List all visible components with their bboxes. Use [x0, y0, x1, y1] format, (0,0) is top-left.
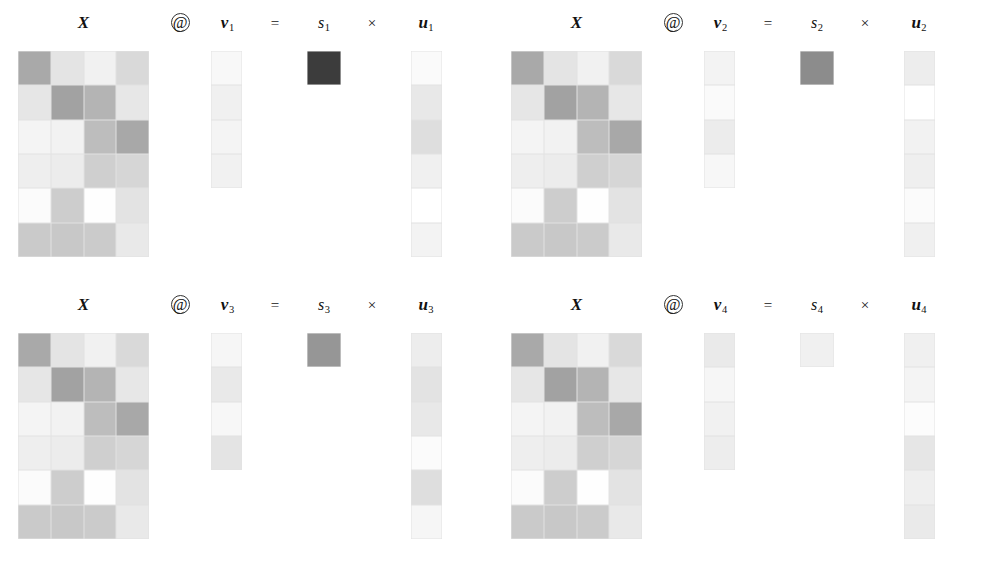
- heatmap-scalar-s: [307, 333, 341, 367]
- heatmap-cell: [116, 120, 149, 154]
- heatmap-cell: [577, 402, 610, 436]
- heatmap-cell: [18, 188, 51, 222]
- heatmap-cell: [411, 367, 442, 401]
- heatmap-cell: [211, 333, 242, 367]
- heatmap-cell: [544, 188, 577, 222]
- heatmap-cell: [704, 367, 735, 401]
- matmul-operator-4: @: [653, 292, 693, 318]
- heatmap-cell: [511, 333, 544, 367]
- heatmap-cell: [51, 470, 84, 504]
- heatmap-cell: [411, 470, 442, 504]
- times-operator-3: ×: [356, 292, 388, 318]
- heatmap-vector-v: [211, 51, 242, 188]
- heatmap-cell: [84, 188, 117, 222]
- vector-label-v-4: v4: [698, 292, 743, 323]
- heatmap-cell: [18, 85, 51, 119]
- heatmap-cell: [411, 333, 442, 367]
- heatmap-cell: [116, 367, 149, 401]
- heatmap-cell: [577, 85, 610, 119]
- heatmap-cell: [511, 402, 544, 436]
- heatmap-cell: [211, 120, 242, 154]
- heatmap-cell: [18, 154, 51, 188]
- heatmap-cell: [51, 188, 84, 222]
- heatmap-cell: [116, 436, 149, 470]
- heatmap-cell: [511, 436, 544, 470]
- heatmap-cell: [211, 402, 242, 436]
- heatmap-vector-u: [904, 51, 935, 257]
- heatmap-cell: [511, 367, 544, 401]
- heatmap-cell: [577, 51, 610, 85]
- heatmap-cell: [51, 51, 84, 85]
- heatmap-cell: [609, 223, 642, 257]
- heatmap-cell: [18, 402, 51, 436]
- heatmap-cell: [904, 85, 935, 119]
- heatmap-cell: [18, 470, 51, 504]
- heatmap-vector-v: [211, 333, 242, 470]
- heatmap-cell: [411, 505, 442, 539]
- heatmap-scalar-s: [307, 51, 341, 85]
- vector-label-u-2: u2: [893, 10, 945, 41]
- heatmap-cell: [411, 402, 442, 436]
- heatmap-scalar-s: [800, 51, 834, 85]
- matmul-operator-3: @: [160, 292, 200, 318]
- matrix-label-X-4: X: [511, 292, 642, 318]
- heatmap-cell: [609, 85, 642, 119]
- vector-label-u-4: u4: [893, 292, 945, 323]
- heatmap-cell: [18, 436, 51, 470]
- heatmap-cell: [800, 51, 834, 85]
- equation-labels-2: X @ v2 = s2 × u2: [493, 10, 986, 40]
- equation-labels-1: X @ v1 = s1 × u1: [0, 10, 493, 40]
- heatmap-cell: [18, 367, 51, 401]
- scalar-label-s-1: s1: [298, 10, 350, 41]
- heatmap-cell: [609, 367, 642, 401]
- equals-operator-3: =: [258, 292, 292, 318]
- heatmap-cell: [544, 333, 577, 367]
- heatmap-cell: [116, 505, 149, 539]
- heatmap-cell: [904, 367, 935, 401]
- heatmap-matrix-X: [18, 333, 149, 539]
- heatmap-cell: [800, 333, 834, 367]
- vector-label-u-1: u1: [400, 10, 452, 41]
- heatmap-cell: [51, 223, 84, 257]
- heatmap-cell: [511, 120, 544, 154]
- heatmap-cell: [411, 223, 442, 257]
- figure-canvas: X @ v1 = s1 × u1: [0, 0, 987, 564]
- equation-labels-4: X @ v4 = s4 × u4: [493, 292, 986, 322]
- heatmap-cell: [577, 436, 610, 470]
- matrix-label-X-2: X: [511, 10, 642, 36]
- matmul-operator-1: @: [160, 10, 200, 36]
- equation-panel-2: X @ v2 = s2 × u2: [493, 0, 986, 282]
- heatmap-cell: [116, 223, 149, 257]
- heatmap-cell: [211, 85, 242, 119]
- heatmap-cell: [51, 367, 84, 401]
- times-operator-2: ×: [849, 10, 881, 36]
- heatmap-cell: [904, 402, 935, 436]
- heatmap-cell: [116, 470, 149, 504]
- heatmap-cell: [18, 120, 51, 154]
- equals-operator-2: =: [751, 10, 785, 36]
- heatmap-cell: [511, 51, 544, 85]
- heatmap-cell: [609, 154, 642, 188]
- heatmap-cell: [904, 188, 935, 222]
- equation-panel-1: X @ v1 = s1 × u1: [0, 0, 493, 282]
- vector-label-v-1: v1: [205, 10, 250, 41]
- heatmap-cell: [704, 51, 735, 85]
- heatmap-cell: [411, 51, 442, 85]
- heatmap-cell: [544, 223, 577, 257]
- heatmap-cell: [577, 505, 610, 539]
- heatmap-matrix-X: [511, 333, 642, 539]
- heatmap-cell: [609, 51, 642, 85]
- heatmap-cell: [116, 154, 149, 188]
- heatmap-cell: [511, 188, 544, 222]
- heatmap-cell: [704, 333, 735, 367]
- heatmap-cell: [18, 505, 51, 539]
- heatmap-cell: [18, 51, 51, 85]
- heatmap-cell: [84, 470, 117, 504]
- equals-operator-4: =: [751, 292, 785, 318]
- heatmap-cell: [116, 85, 149, 119]
- heatmap-cell: [544, 154, 577, 188]
- vector-label-u-3: u3: [400, 292, 452, 323]
- heatmap-cell: [904, 333, 935, 367]
- heatmap-cell: [51, 154, 84, 188]
- matrix-label-X-1: X: [18, 10, 149, 36]
